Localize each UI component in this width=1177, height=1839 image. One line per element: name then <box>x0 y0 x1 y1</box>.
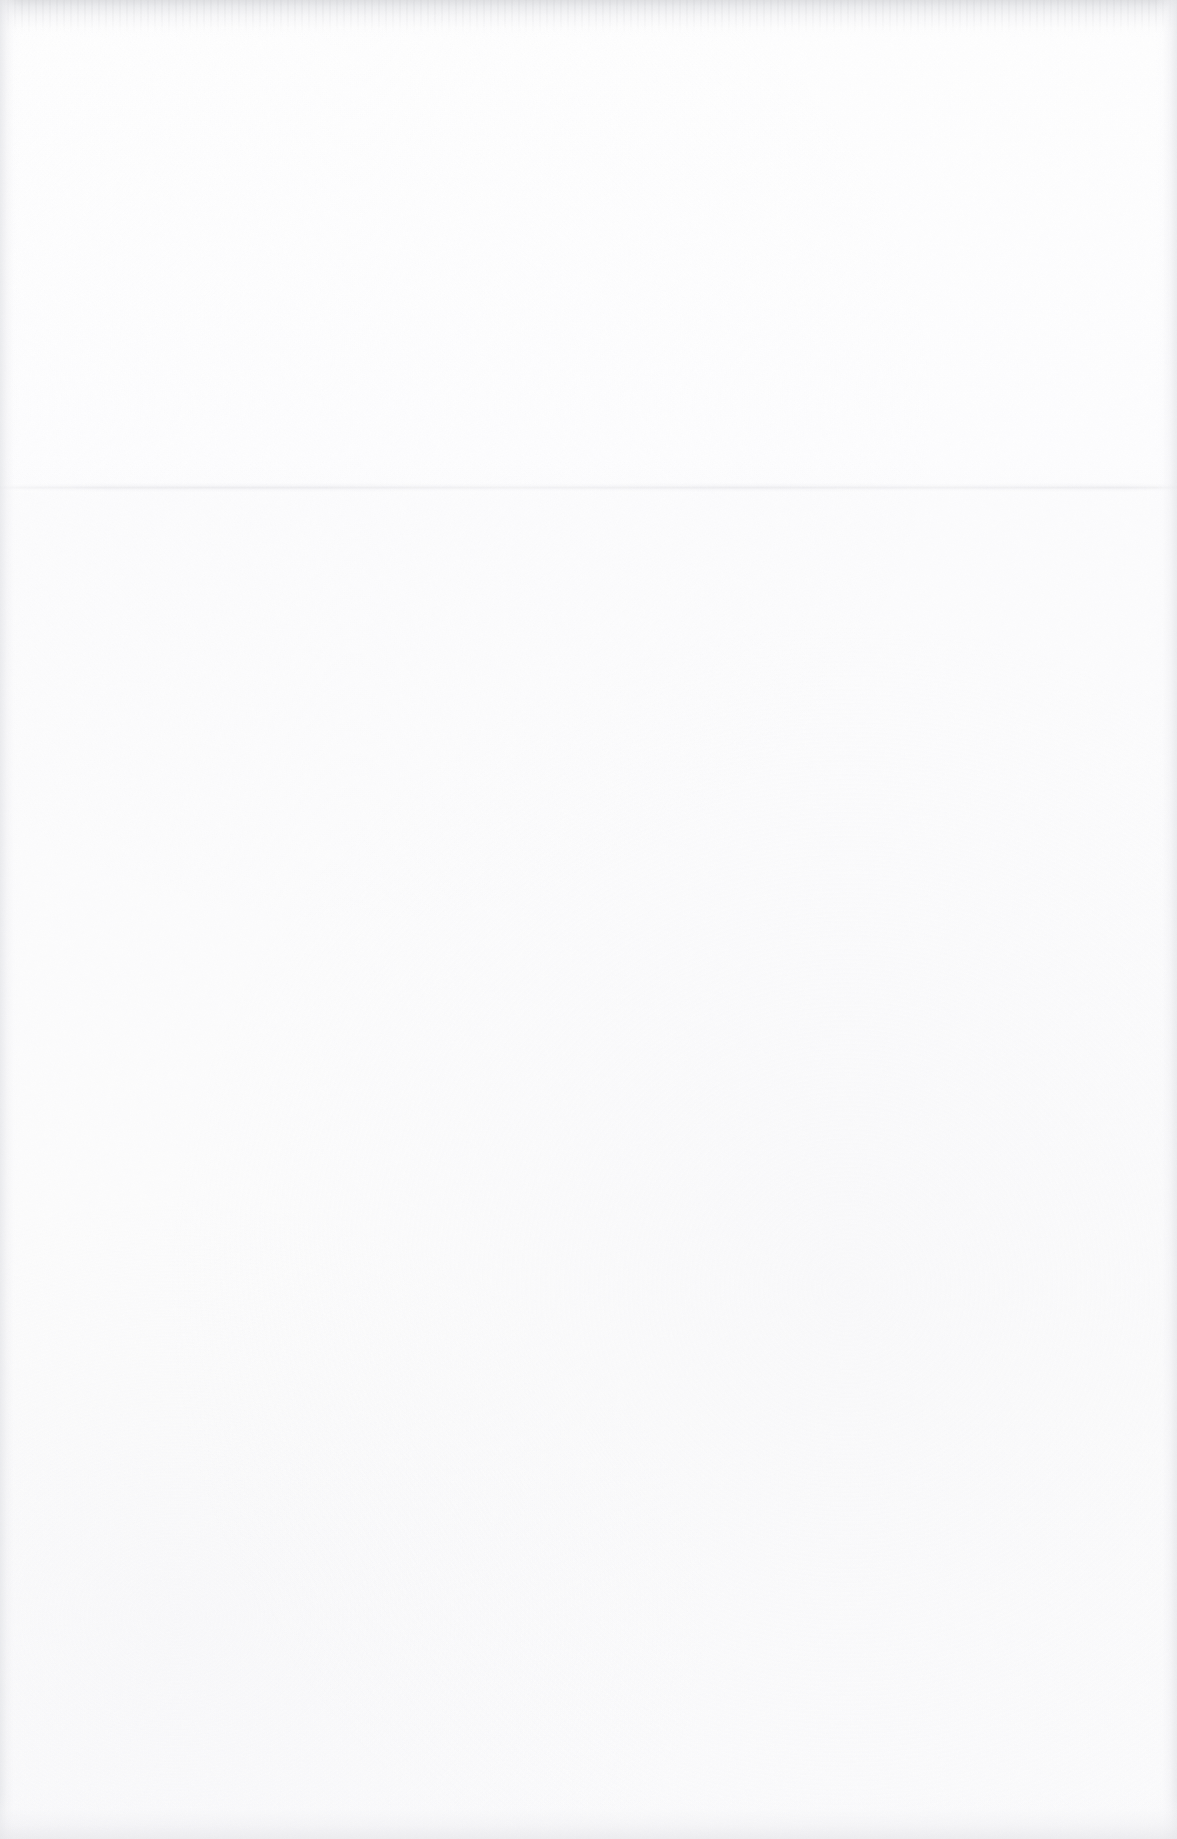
paper-brightness-wash <box>0 0 1177 1839</box>
scan-seam-variation <box>0 483 1177 492</box>
scanned-page <box>0 0 1177 1839</box>
